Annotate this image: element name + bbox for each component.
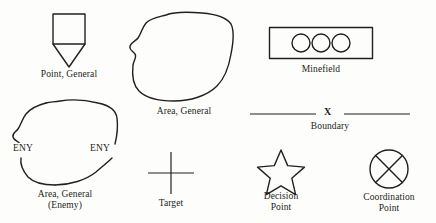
point-general-label: Point, General [9,69,129,80]
area-general-enemy-label: Area, General (Enemy) [5,189,125,211]
eny-marker-left: ENY [12,143,34,153]
area-general-symbol [128,10,240,106]
decision-point-label-line2: Point [271,202,292,212]
coordination-point-label-line2: Point [379,203,400,213]
circle-with-x-icon [367,147,411,191]
symbol-legend-figure: Point, General Area, General Minefield E… [0,0,436,223]
cross-hair-plus-icon [148,152,194,194]
minefield-label: Minefield [261,64,381,75]
decision-point-label-line1: Decision [264,191,299,201]
target-symbol [148,152,194,194]
boundary-label: Boundary [270,121,390,132]
coordination-point-label-line1: Coordination [363,192,414,202]
eny-marker-right: ENY [89,143,111,153]
minefield-symbol [268,26,374,60]
decision-point-symbol [255,148,307,196]
area-general-enemy-label-line1: Area, General [38,189,93,199]
irregular-closed-blob-icon [128,10,240,106]
square-with-downward-point-icon [48,12,90,70]
coordination-point-symbol [367,147,411,191]
area-general-enemy-label-line2: (Enemy) [48,200,82,210]
point-general-symbol [48,12,90,70]
area-general-label: Area, General [124,106,244,117]
five-pointed-star-outline-icon [255,148,307,196]
rectangle-with-three-circles-icon [268,26,374,60]
target-label: Target [111,198,231,209]
coordination-point-label: Coordination Point [329,192,436,214]
boundary-x-mark: X [324,106,331,117]
decision-point-label: Decision Point [221,191,341,213]
